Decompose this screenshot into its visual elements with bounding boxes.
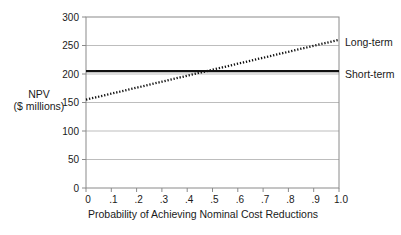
- series-label-short-term: Short-term: [345, 68, 395, 80]
- y-tick-label: 250: [62, 40, 79, 51]
- x-tick-label: .1: [109, 194, 118, 205]
- x-tick-label: 0: [85, 194, 91, 205]
- npv-sensitivity-chart: 0501001502002503000.1.2.3.4.5.6.7.8.91.0…: [0, 0, 401, 235]
- x-tick-label: .3: [160, 194, 169, 205]
- y-tick-label: 50: [68, 154, 80, 165]
- x-tick-label: .9: [312, 194, 321, 205]
- x-tick-label: .8: [286, 194, 295, 205]
- y-tick-label: 0: [73, 183, 79, 194]
- x-tick-label: .5: [210, 194, 219, 205]
- x-tick-label: .6: [236, 194, 245, 205]
- series-label-long-term: Long-term: [345, 36, 393, 48]
- x-tick-label: .7: [261, 194, 270, 205]
- x-tick-label: .2: [134, 194, 143, 205]
- y-tick-label: 100: [62, 126, 79, 137]
- y-tick-label: 300: [62, 12, 79, 23]
- x-tick-label: .4: [185, 194, 194, 205]
- x-tick-label: 1.0: [334, 194, 348, 205]
- y-tick-label: 200: [62, 69, 79, 80]
- x-axis-title: Probability of Achieving Nominal Cost Re…: [78, 208, 328, 220]
- y-axis-title: NPV ($ millions): [4, 88, 74, 112]
- series-line-long-term: [86, 40, 339, 100]
- y-axis-title-line1: NPV: [4, 88, 74, 100]
- y-axis-title-line2: ($ millions): [4, 100, 74, 112]
- chart-canvas: 0501001502002503000.1.2.3.4.5.6.7.8.91.0: [0, 0, 401, 235]
